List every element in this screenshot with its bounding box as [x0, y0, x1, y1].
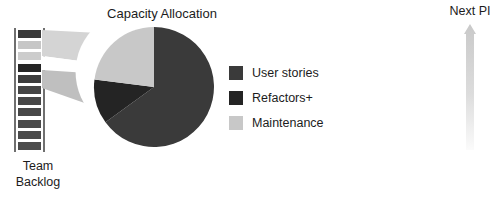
next-pi-label: Next PI [437, 4, 503, 18]
pie-chart-legend: User storiesRefactors+Maintenance [229, 62, 349, 137]
backlog-item-9 [18, 120, 41, 128]
backlog-item-2 [18, 41, 41, 49]
pie-chart [93, 26, 215, 148]
legend-label-maintenance: Maintenance [252, 116, 324, 130]
legend-label-refactors: Refactors+ [252, 91, 313, 105]
legend-swatch-maintenance [229, 116, 243, 130]
legend-swatch-refactors [229, 91, 243, 105]
backlog-item-6 [18, 86, 41, 94]
legend-item-user-stories[interactable]: User stories [229, 62, 349, 83]
backlog-item-3 [18, 52, 41, 60]
next-pi-arrow [456, 22, 484, 152]
backlog-item-8 [18, 108, 41, 116]
backlog-item-1 [18, 30, 41, 38]
backlog-item-5 [18, 75, 41, 83]
legend-item-maintenance[interactable]: Maintenance [229, 112, 349, 133]
backlog-caption-line2: Backlog [0, 174, 76, 190]
backlog-item-11 [18, 142, 41, 150]
backlog-item-7 [18, 97, 41, 105]
backlog-item-4 [18, 64, 41, 72]
legend-label-user-stories: User stories [252, 66, 319, 80]
legend-item-refactors[interactable]: Refactors+ [229, 87, 349, 108]
pie-chart-title: Capacity Allocation [92, 6, 232, 21]
backlog-caption-line1: Team [0, 158, 76, 174]
legend-swatch-user-stories [229, 66, 243, 80]
backlog-item-10 [18, 131, 41, 139]
team-backlog-caption: Team Backlog [0, 158, 76, 190]
next-pi-arrow-shape [464, 24, 476, 150]
pie-chart-svg [93, 26, 215, 148]
capacity-allocation-diagram: Team Backlog Capacity Allocation User st… [0, 0, 503, 199]
pie-slice-maintenance [94, 27, 154, 87]
backlog-item-list [18, 30, 41, 150]
